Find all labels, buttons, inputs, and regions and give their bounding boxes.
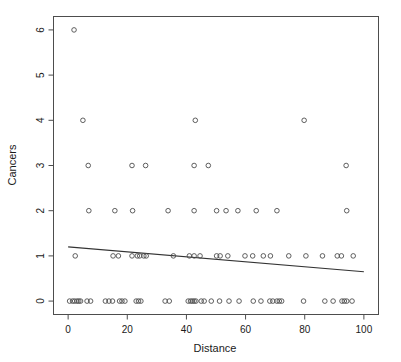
y-tick-label: 1 <box>35 253 46 259</box>
x-tick-label: 60 <box>240 324 252 335</box>
plot-canvas: 0123456 020406080100 Distance Cancers <box>0 0 401 362</box>
y-tick-label: 4 <box>35 117 46 123</box>
x-tick-label: 20 <box>122 324 134 335</box>
x-tick-label: 40 <box>181 324 193 335</box>
y-tick-label: 3 <box>35 162 46 168</box>
x-tick-label: 0 <box>65 324 71 335</box>
y-tick-label: 0 <box>35 298 46 304</box>
x-tick-label: 80 <box>299 324 311 335</box>
x-tick-label: 100 <box>356 324 373 335</box>
y-tick-label: 2 <box>35 207 46 213</box>
y-tick-label: 6 <box>35 27 46 33</box>
y-tick-label: 5 <box>35 72 46 78</box>
figure-background <box>0 0 401 362</box>
y-axis-label: Cancers <box>6 144 18 185</box>
scatter-plot-figure: 0123456 020406080100 Distance Cancers <box>0 0 401 362</box>
x-axis-label: Distance <box>194 342 237 354</box>
